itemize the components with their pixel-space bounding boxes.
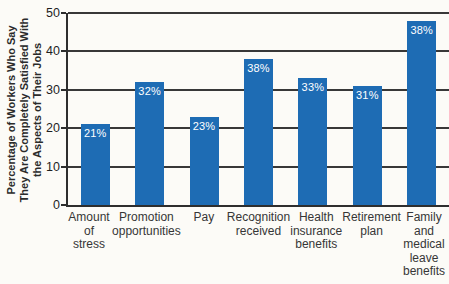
bar-value-label: 23% [193,120,216,132]
category-label: Promotion opportunities [112,211,181,238]
category-label-slot: Pay [181,211,227,225]
plot-area: 21%32%23%38%33%31%38% [66,13,449,207]
bar-slot: 38% [231,13,285,205]
category-label: Amount of stress [68,211,109,252]
bar-slot: 31% [340,13,394,205]
bar-slot: 21% [68,13,122,205]
category-label: Health insurance benefits [290,211,342,252]
category-label-slot: Family and medical leave benefits [401,211,447,279]
bar-value-label: 38% [247,62,270,74]
bar-slot: 32% [122,13,176,205]
category-label: Retirement plan [342,211,401,238]
category-label-slot: Health insurance benefits [290,211,342,252]
y-tick-label: 30 [28,82,60,98]
category-label-slot: Recognition received [227,211,290,238]
bar-2: 32% [135,82,164,205]
bar-value-label: 33% [302,81,325,93]
bar-slot: 33% [286,13,340,205]
category-labels: Amount of stressPromotion opportunitiesP… [66,211,447,279]
y-tick-mark [61,204,66,206]
bar-value-label: 38% [410,24,433,36]
y-tick-label: 0 [28,197,60,213]
bar-slot: 38% [395,13,449,205]
y-tick-label: 20 [28,120,60,136]
bar-3: 23% [190,117,219,205]
bar-value-label: 32% [138,85,161,97]
category-label-slot: Retirement plan [342,211,401,238]
y-tick-mark [61,12,66,14]
y-tick-mark [61,127,66,129]
bar-chart-figure: Percentage of Workers Who Say They Are C… [0,0,449,284]
category-label-slot: Promotion opportunities [112,211,181,238]
bars-container: 21%32%23%38%33%31%38% [68,13,449,205]
category-label-slot: Amount of stress [66,211,112,252]
y-tick-label: 40 [28,43,60,59]
bar-5: 33% [298,78,327,205]
y-tick-mark [61,50,66,52]
bar-6: 31% [353,86,382,205]
y-tick-mark [61,166,66,168]
category-label: Family and medical leave benefits [403,211,445,279]
bar-1: 21% [81,124,110,205]
bar-4: 38% [244,59,273,205]
bar-value-label: 21% [84,127,107,139]
y-tick-mark [61,89,66,91]
bar-7: 38% [407,21,436,205]
bar-slot: 23% [177,13,231,205]
y-tick-label: 50 [28,5,60,21]
y-tick-label: 10 [28,159,60,175]
bar-value-label: 31% [356,89,379,101]
category-label: Pay [193,211,214,225]
category-label: Recognition received [227,211,290,238]
